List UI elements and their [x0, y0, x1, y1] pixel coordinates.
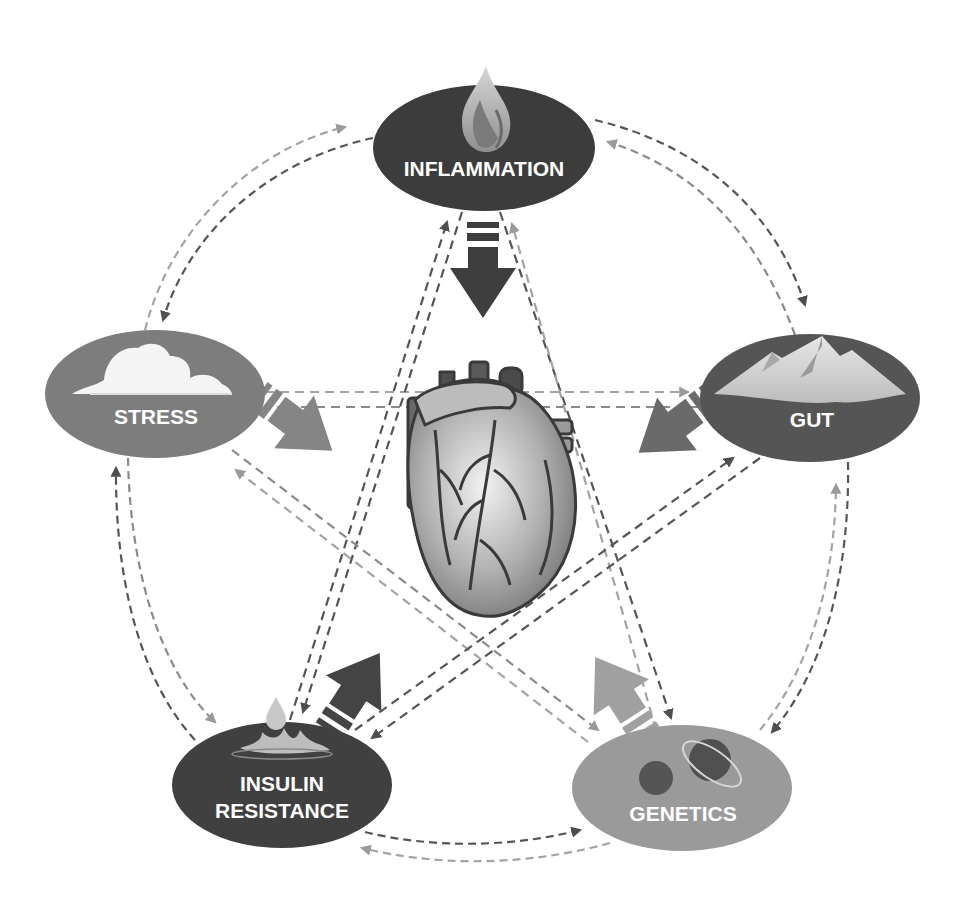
node-label-inflammation: INFLAMMATION [404, 157, 565, 180]
node-inflammation: INFLAMMATION [373, 66, 595, 211]
node-insulin-resistance: INSULIN RESISTANCE [172, 697, 392, 848]
big-arrow-inflammation [450, 222, 516, 318]
flame-icon [462, 66, 510, 152]
node-label-insulin: INSULIN [240, 772, 324, 795]
arrow-inflammation-to-stress [163, 138, 373, 320]
arrow-stress-to-inflammation [145, 127, 345, 330]
node-stress: STRESS [45, 330, 265, 458]
arrow-genetics-to-insulin [362, 843, 610, 861]
arrow-inflammation-to-gut [595, 120, 805, 305]
node-gut: GUT [700, 334, 920, 462]
arrow-gut-to-genetics [772, 462, 848, 732]
node-label-genetics: GENETICS [629, 802, 736, 825]
heart-anatomical-icon [408, 362, 576, 616]
arrow-gut-to-inflammation [608, 142, 795, 335]
arrow-insulin-to-genetics [365, 830, 580, 844]
node-genetics: GENETICS [572, 725, 792, 851]
heart-factors-diagram: INFLAMMATION STRESS GUT INSULIN RESISTAN… [0, 0, 979, 914]
node-label-resistance: RESISTANCE [215, 799, 349, 822]
arrow-stress-to-insulin [128, 458, 215, 722]
arrow-insulin-to-stress [116, 468, 195, 740]
node-label-stress: STRESS [114, 405, 198, 428]
node-label-gut: GUT [790, 408, 835, 431]
